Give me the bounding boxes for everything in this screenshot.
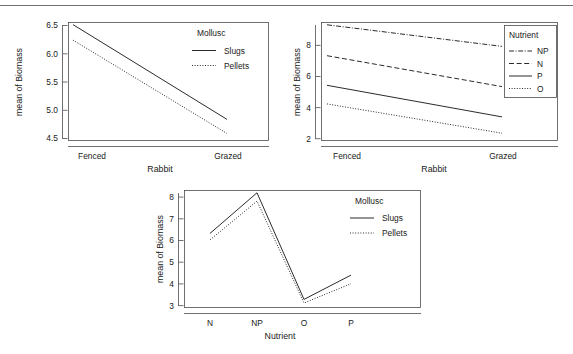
interaction-plot-panel-2: 2 4 6 8 mean of Biomass Fenced Grazed Ra… — [288, 8, 573, 180]
panel-3-legend-title: Mollusc — [355, 196, 383, 206]
panel-3-y-axis-title: mean of Biomass — [155, 214, 165, 283]
panel-2-ytick-2: 6 — [306, 71, 311, 81]
panel-1-y-axis-title: mean of Biomass — [14, 47, 24, 116]
panel-2-ytick-1: 4 — [306, 103, 311, 113]
panel-3-ytick-1: 4 — [169, 279, 174, 289]
panel-3-ytick-0: 3 — [169, 301, 174, 311]
interaction-plot-panel-1: 4.5 5.0 5.5 6.0 6.5 mean of Biomass Fenc… — [0, 8, 290, 180]
panel-3-ytick-5: 8 — [169, 192, 174, 202]
panel-2-series-n — [327, 56, 502, 87]
panel-1-ytick-2: 5.5 — [46, 77, 58, 87]
panel-1-legend-label-slugs: Slugs — [224, 46, 245, 56]
panel-3-series-pellets — [210, 201, 351, 303]
panel-3-xtick-1: NP — [251, 318, 263, 328]
panel-2-xtick-0: Fenced — [333, 151, 361, 161]
panel-2-series-np — [327, 25, 502, 47]
panel-3-series-slugs — [210, 193, 351, 300]
panel-3-ytick-4: 7 — [169, 214, 174, 224]
panel-1-series-slugs — [73, 25, 227, 120]
panel-1-svg: 4.5 5.0 5.5 6.0 6.5 mean of Biomass Fenc… — [0, 8, 290, 180]
panel-2-legend-label-p: P — [537, 71, 543, 81]
panel-1-ytick-4: 6.5 — [46, 20, 58, 30]
panel-3-xtick-3: P — [348, 318, 354, 328]
panel-2-ytick-0: 2 — [306, 134, 311, 144]
panel-1-legend: Mollusc Slugs Pellets — [192, 28, 249, 71]
panel-2-series-p — [327, 85, 502, 117]
panel-1-ytick-0: 4.5 — [46, 133, 58, 143]
panel-3-ytick-2: 5 — [169, 257, 174, 267]
panel-1-legend-label-pellets: Pellets — [224, 61, 249, 71]
panel-2-y-axis-title: mean of Biomass — [292, 47, 302, 116]
panel-2-legend-label-n: N — [537, 59, 543, 69]
panel-3-legend-label-pellets: Pellets — [382, 228, 407, 238]
panel-3-y-ticks — [179, 197, 184, 306]
panel-3-xtick-2: O — [301, 318, 308, 328]
panel-2-svg: 2 4 6 8 mean of Biomass Fenced Grazed Ra… — [288, 8, 573, 180]
header-divider — [0, 5, 573, 6]
panel-3-x-axis-title: Nutrient — [265, 331, 296, 341]
panel-2-legend-label-o: O — [537, 84, 544, 94]
panel-2-x-axis-title: Rabbit — [421, 164, 447, 174]
panel-3-xtick-0: N — [207, 318, 213, 328]
panel-1-xtick-1: Grazed — [214, 151, 242, 161]
panel-2-y-ticks — [316, 45, 321, 138]
panel-2-series-o — [327, 104, 502, 133]
panel-1-ytick-3: 6.0 — [46, 49, 58, 59]
panel-3-ytick-3: 6 — [169, 235, 174, 245]
panel-2-legend-label-np: NP — [537, 46, 549, 56]
panel-1-ytick-1: 5.0 — [46, 105, 58, 115]
panel-1-series-pellets — [73, 40, 227, 133]
panel-1-x-axis-title: Rabbit — [147, 164, 173, 174]
panel-3-svg: 3 4 5 6 7 8 mean of Biomass N NP O P Nut… — [140, 182, 440, 354]
panel-3-legend: Mollusc Slugs Pellets — [350, 196, 407, 238]
interaction-plot-panel-3: 3 4 5 6 7 8 mean of Biomass N NP O P Nut… — [140, 182, 440, 354]
panel-2-legend-title: Nutrient — [509, 30, 539, 40]
panel-2-ytick-3: 8 — [306, 40, 311, 50]
panel-2-xtick-1: Grazed — [489, 151, 517, 161]
panel-3-plot-frame — [185, 191, 421, 308]
panel-2-plot-frame — [322, 23, 558, 141]
panel-2-legend: Nutrient NP N P O — [505, 26, 557, 98]
panel-1-xtick-0: Fenced — [78, 151, 106, 161]
panel-3-legend-label-slugs: Slugs — [382, 213, 403, 223]
panel-1-y-ticks — [63, 26, 68, 139]
panel-1-legend-title: Mollusc — [197, 28, 225, 38]
